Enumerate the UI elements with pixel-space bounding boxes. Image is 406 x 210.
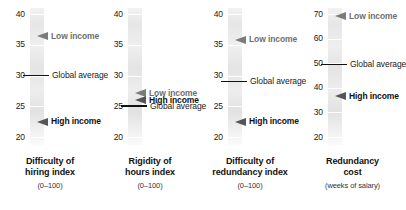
y-axis-tick-mark — [128, 45, 142, 46]
annotation-global-average: Global average — [122, 101, 206, 112]
annotation-global-average: Global average — [222, 76, 306, 87]
annotation-label: Global average — [350, 60, 406, 69]
y-axis-tick-label: 25 — [102, 102, 123, 111]
y-axis-tick-label: 20 — [4, 133, 25, 142]
left-arrow-icon — [235, 36, 246, 44]
global-average-rule-icon — [321, 64, 347, 66]
y-axis-tick-label: 40 — [4, 10, 25, 19]
left-arrow-icon — [235, 118, 246, 126]
panel-caption-line2: hours index — [100, 167, 200, 178]
panel-caption-line2: redundancy index — [200, 167, 300, 178]
annotation-label: High income — [51, 117, 101, 126]
left-arrow-icon — [335, 12, 346, 20]
panel-caption: Difficulty ofhiring index(0–100) — [0, 156, 100, 191]
gradient-scale-bar — [128, 8, 142, 145]
y-axis-tick-label: 40 — [202, 10, 223, 19]
annotation-low-income: Low income — [322, 11, 397, 22]
panel-caption-units: (0–100) — [0, 180, 100, 191]
left-arrow-icon — [37, 32, 48, 40]
left-arrow-icon — [37, 118, 48, 126]
panel-caption-units: (weeks of salary) — [300, 180, 405, 191]
y-axis-tick-label: 30 — [102, 71, 123, 80]
y-axis-tick-label: 70 — [302, 10, 323, 19]
chart-panel-redundancy-cost: 706050403020Low incomeGlobal averageHigh… — [300, 0, 405, 210]
y-axis-tick-mark — [328, 112, 342, 113]
y-axis-tick-label: 20 — [202, 133, 223, 142]
y-axis-tick-mark — [30, 45, 44, 46]
chart-panel-difficulty-of-redundancy: 4035302520Low incomeGlobal averageHigh i… — [200, 0, 300, 210]
y-axis-tick-mark — [228, 106, 242, 107]
panel-caption-line1: Rigidity of — [100, 156, 200, 167]
panel-caption: Redundancycost(weeks of salary) — [300, 156, 405, 191]
panel-caption: Difficulty ofredundancy index(0–100) — [200, 156, 300, 191]
y-axis-tick-mark — [128, 14, 142, 15]
annotation-label: Low income — [249, 35, 297, 44]
y-axis-tick-label: 40 — [102, 10, 123, 19]
y-axis-tick-mark — [128, 76, 142, 77]
y-axis-tick-mark — [328, 88, 342, 89]
y-axis-tick-label: 30 — [4, 71, 25, 80]
annotation-high-income: High income — [24, 116, 101, 127]
annotation-label: High income — [349, 92, 399, 101]
panel-caption-line2: cost — [300, 167, 405, 178]
global-average-rule-icon — [221, 81, 247, 83]
global-average-rule-icon — [23, 75, 49, 77]
y-axis-tick-label: 25 — [4, 102, 25, 111]
y-axis-tick-label: 25 — [202, 102, 223, 111]
plot-area: 4035302520Low incomeGlobal averageHigh i… — [0, 0, 100, 150]
panel-caption-line2: hiring index — [0, 167, 100, 178]
annotation-label: Low income — [349, 12, 397, 21]
panel-caption-line1: Redundancy — [300, 156, 405, 167]
panel-caption-line1: Difficulty of — [200, 156, 300, 167]
annotation-global-average: Global average — [322, 59, 406, 70]
panel-caption-units: (0–100) — [100, 180, 200, 191]
plot-area: 706050403020Low incomeGlobal averageHigh… — [300, 0, 405, 150]
panel-caption: Rigidity ofhours index(0–100) — [100, 156, 200, 191]
panel-caption-units: (0–100) — [200, 180, 300, 191]
y-axis-tick-label: 30 — [302, 108, 323, 117]
y-axis-tick-mark — [328, 39, 342, 40]
y-axis-tick-mark — [30, 14, 44, 15]
y-axis-tick-mark — [328, 137, 342, 138]
y-axis-tick-label: 50 — [302, 59, 323, 68]
plot-area: 4035302520Low incomeHigh incomeGlobal av… — [100, 0, 200, 150]
y-axis-tick-label: 35 — [102, 40, 123, 49]
y-axis-tick-label: 35 — [4, 40, 25, 49]
y-axis-tick-label: 40 — [302, 83, 323, 92]
y-axis-tick-label: 20 — [102, 133, 123, 142]
y-axis-tick-label: 30 — [202, 71, 223, 80]
y-axis-tick-label: 20 — [302, 133, 323, 142]
panel-caption-line1: Difficulty of — [0, 156, 100, 167]
y-axis-tick-mark — [228, 14, 242, 15]
annotation-label: High income — [249, 117, 299, 126]
y-axis-tick-mark — [30, 106, 44, 107]
annotation-high-income: High income — [322, 91, 399, 102]
left-arrow-icon — [335, 92, 346, 100]
annotation-low-income: Low income — [24, 31, 99, 42]
annotation-global-average: Global average — [24, 70, 108, 81]
y-axis-tick-label: 60 — [302, 34, 323, 43]
annotation-label: Global average — [150, 102, 206, 111]
annotation-label: Low income — [51, 32, 99, 41]
chart-panel-rigidity-of-hours: 4035302520Low incomeHigh incomeGlobal av… — [100, 0, 200, 210]
y-axis-tick-label: 35 — [202, 40, 223, 49]
plot-area: 4035302520Low incomeGlobal averageHigh i… — [200, 0, 300, 150]
annotation-label: Global average — [250, 77, 306, 86]
annotation-high-income: High income — [222, 116, 299, 127]
y-axis-tick-mark — [128, 137, 142, 138]
global-average-rule-icon — [121, 105, 147, 107]
annotation-low-income: Low income — [222, 34, 297, 45]
y-axis-tick-mark — [30, 137, 44, 138]
y-axis-tick-mark — [228, 137, 242, 138]
chart-panel-difficulty-of-hiring: 4035302520Low incomeGlobal averageHigh i… — [0, 0, 100, 210]
gradient-scale-bar — [328, 8, 342, 145]
